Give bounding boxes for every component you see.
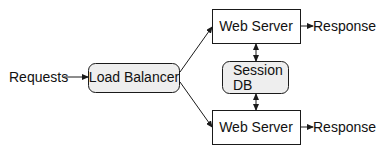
response-1-label: Response bbox=[313, 18, 376, 34]
web-server-1-label: Web Server bbox=[219, 18, 293, 34]
web-server-1-node: Web Server bbox=[213, 10, 301, 44]
web-server-2-label: Web Server bbox=[219, 119, 293, 135]
lb-to-server-2-arrow bbox=[180, 82, 212, 127]
requests-label: Requests bbox=[9, 69, 68, 85]
session-db-label-line2: DB bbox=[233, 77, 252, 93]
web-server-2-node: Web Server bbox=[213, 111, 301, 145]
session-db-label-line1: Session bbox=[233, 62, 283, 78]
load-balancer-label: Load Balancer bbox=[89, 69, 180, 85]
lb-to-server-1-arrow bbox=[180, 27, 212, 72]
session-db-node: Session DB bbox=[223, 62, 289, 94]
architecture-diagram: Requests Load Balancer Web Server Respon… bbox=[0, 0, 379, 155]
load-balancer-node: Load Balancer bbox=[89, 64, 180, 93]
response-2-label: Response bbox=[313, 119, 376, 135]
